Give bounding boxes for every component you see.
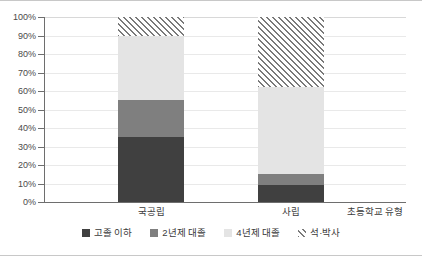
legend-item-2year[interactable]: 2년제 대졸 (150, 227, 206, 238)
gridline-70 (44, 73, 406, 74)
y-tick-label-20: 20% (0, 161, 36, 170)
gridline-80 (44, 54, 406, 55)
y-tick-mark-20 (38, 165, 44, 166)
bar-segment-sarip-2year (258, 174, 324, 185)
y-tick-label-90: 90% (0, 32, 36, 41)
y-tick-label-40: 40% (0, 124, 36, 133)
gridline-40 (44, 128, 406, 129)
legend-label-2year: 2년제 대졸 (162, 227, 206, 238)
gridline-10 (44, 184, 406, 185)
y-tick-mark-70 (38, 73, 44, 74)
legend-item-highschool[interactable]: 고졸 이하 (82, 227, 133, 238)
y-tick-mark-90 (38, 36, 44, 37)
gridline-50 (44, 110, 406, 111)
bar-segment-sarip-graduate (258, 17, 324, 87)
y-tick-mark-40 (38, 128, 44, 129)
y-tick-label-80: 80% (0, 50, 36, 59)
bar-group-sarip[interactable] (258, 17, 324, 202)
legend-swatch-icon-highschool (82, 229, 90, 237)
y-tick-mark-60 (38, 91, 44, 92)
x-axis-title: 초등학교 유형 (332, 206, 418, 218)
x-axis-line (44, 202, 406, 203)
y-tick-label-70: 70% (0, 69, 36, 78)
legend-item-4year[interactable]: 4년제 대졸 (224, 227, 280, 238)
y-tick-mark-50 (38, 110, 44, 111)
y-tick-mark-100 (38, 17, 44, 18)
stacked-bar-chart: 100% 90% 80% 70% 60% 50% 40% 30% 20% 10%… (0, 0, 422, 256)
y-tick-label-100: 100% (0, 13, 36, 22)
gridline-20 (44, 165, 406, 166)
legend-swatch-icon-4year (224, 229, 232, 237)
bar-segment-gukgongrip-graduate (118, 17, 184, 36)
gridline-30 (44, 147, 406, 148)
bar-segment-gukgongrip-highschool (118, 137, 184, 202)
y-tick-mark-80 (38, 54, 44, 55)
y-axis-line (44, 17, 45, 203)
y-tick-mark-0 (38, 202, 44, 203)
plot-area (44, 17, 406, 202)
gridline-100 (44, 17, 406, 18)
legend-swatch-icon-2year (150, 229, 158, 237)
x-category-label-gukgongrip: 국공립 (106, 206, 196, 218)
chart-legend: 고졸 이하 2년제 대졸 4년제 대졸 석·박사 (0, 227, 422, 238)
legend-label-graduate: 석·박사 (310, 227, 340, 238)
gridline-60 (44, 91, 406, 92)
y-tick-label-50: 50% (0, 106, 36, 115)
bar-segment-gukgongrip-4year (118, 36, 184, 101)
y-tick-label-60: 60% (0, 87, 36, 96)
bar-segment-gukgongrip-2year (118, 100, 184, 137)
legend-item-graduate[interactable]: 석·박사 (298, 227, 340, 238)
x-category-label-sarip: 사립 (246, 206, 336, 218)
legend-label-4year: 4년제 대졸 (236, 227, 280, 238)
bar-group-gukgongrip[interactable] (118, 17, 184, 202)
gridline-90 (44, 36, 406, 37)
y-tick-label-30: 30% (0, 143, 36, 152)
legend-label-highschool: 고졸 이하 (94, 227, 133, 238)
y-tick-label-0: 0% (0, 198, 36, 207)
legend-swatch-icon-graduate (298, 229, 306, 237)
bar-segment-sarip-highschool (258, 185, 324, 202)
y-tick-mark-30 (38, 147, 44, 148)
bar-segment-sarip-4year (258, 87, 324, 174)
y-tick-mark-10 (38, 184, 44, 185)
y-tick-label-10: 10% (0, 180, 36, 189)
